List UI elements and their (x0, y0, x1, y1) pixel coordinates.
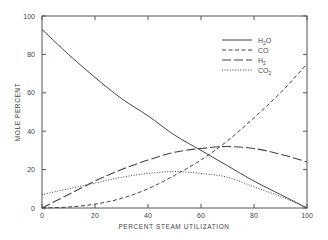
x-tick-label: 0 (40, 212, 44, 219)
x-tick-label: 20 (91, 212, 99, 219)
x-tick-label: 40 (144, 212, 152, 219)
y-tick-label: 80 (27, 51, 35, 58)
legend-label-co: CO (258, 47, 269, 54)
y-tick-label: 20 (27, 166, 35, 173)
y-tick-label: 40 (27, 128, 35, 135)
series-line-co2 (42, 172, 307, 208)
series-line-co (42, 64, 307, 208)
legend-label-h2: H2 (258, 57, 266, 66)
legend-label-co2: CO2 (258, 67, 272, 76)
series-lines (42, 29, 307, 208)
x-axis-label: PERCENT STEAM UTILIZATION (118, 223, 229, 230)
x-tick-label: 60 (197, 212, 205, 219)
y-tick-label: 100 (23, 13, 35, 20)
y-tick-label: 60 (27, 89, 35, 96)
legend-label-h2o: H2O (258, 37, 272, 46)
series-line-h2 (42, 147, 307, 208)
y-axis-label: MOLE PERCENT (14, 83, 21, 142)
legend: H2OCOH2CO2 (222, 37, 272, 76)
series-line-h2o (42, 29, 307, 208)
y-tick-label: 0 (31, 205, 35, 212)
x-tick-label: 80 (250, 212, 258, 219)
x-tick-label: 100 (301, 212, 313, 219)
plot-frame (42, 16, 307, 208)
line-chart: 020406080100020406080100 H2OCOH2CO2 PERC… (0, 0, 328, 240)
